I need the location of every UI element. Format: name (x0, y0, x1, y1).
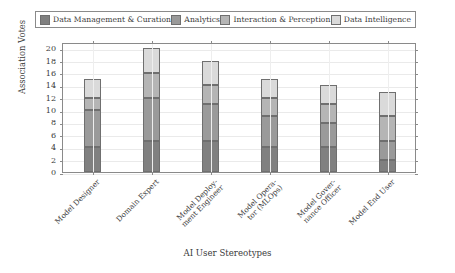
x-tick-mark (329, 172, 330, 175)
legend-swatch-icon (220, 15, 230, 25)
y-gridline (63, 161, 415, 162)
x-gridline (270, 44, 271, 172)
x-tick-mark (388, 172, 389, 175)
x-gridline (388, 44, 389, 172)
y-tick-mark (415, 50, 418, 51)
legend-swatch-icon (331, 15, 341, 25)
legend-label: Data Intelligence (344, 15, 411, 24)
x-gridline (329, 44, 330, 172)
y-tick-label: 0 (51, 169, 56, 177)
y-tick-mark (60, 62, 63, 63)
y-tick-mark (60, 124, 63, 125)
x-tick-label: Model Designer (46, 178, 101, 233)
y-gridline (63, 62, 415, 63)
y-tick-label: 4 (51, 144, 56, 152)
y-tick-mark (60, 174, 63, 175)
y-tick-mark (60, 50, 63, 51)
y-tick-label: 6 (51, 132, 56, 140)
x-gridline (211, 44, 212, 172)
x-tick-label: Model End User (341, 178, 396, 233)
legend-entry-1: Analytics (171, 15, 220, 25)
y-tick-mark (415, 161, 418, 162)
y-gridline (63, 112, 415, 113)
y-gridline (63, 174, 415, 175)
stacked-bar-chart: Data Management & CurationAnalyticsInter… (0, 0, 455, 273)
y-tick-label: 12 (46, 95, 56, 103)
y-gridline (63, 74, 415, 75)
y-gridline (63, 50, 415, 51)
x-tick-mark (152, 172, 153, 175)
x-tick-mark (211, 172, 212, 175)
y-tick-mark (415, 124, 418, 125)
x-tick-mark (270, 172, 271, 175)
x-gridline (152, 44, 153, 172)
y-tick-mark (415, 149, 418, 150)
y-tick-mark (60, 99, 63, 100)
x-axis-title: AI User Stereotypes (0, 248, 455, 258)
y-tick-label: 10 (46, 107, 56, 115)
y-gridline (63, 87, 415, 88)
legend-entry-0: Data Management & Curation (40, 15, 171, 25)
y-tick-mark (60, 112, 63, 113)
y-tick-mark (60, 161, 63, 162)
legend-entry-2: Interaction & Perception (220, 15, 330, 25)
x-tick-label: Domain Expert (105, 178, 160, 233)
y-tick-mark (60, 136, 63, 137)
y-gridline (63, 149, 415, 150)
y-tick-mark (60, 87, 63, 88)
y-tick-label: 18 (46, 58, 56, 66)
y-tick-mark (415, 136, 418, 137)
y-tick-mark (60, 149, 63, 150)
x-tick-mark (93, 172, 94, 175)
plot-area (62, 43, 416, 173)
y-tick-mark (415, 74, 418, 75)
y-tick-mark (415, 112, 418, 113)
x-tick-label: Model Gover- nance Officer (282, 178, 343, 239)
y-tick-label: 20 (46, 45, 56, 53)
y-tick-label: 14 (46, 82, 56, 90)
y-tick-mark (415, 62, 418, 63)
x-gridline (93, 44, 94, 172)
legend-label: Analytics (184, 15, 220, 24)
y-tick-mark (415, 174, 418, 175)
chart-legend: Data Management & CurationAnalyticsInter… (35, 11, 416, 28)
y-gridline (63, 124, 415, 125)
x-tick-label: Model Opera- tor (MLOps) (223, 178, 284, 239)
y-tick-label: 2 (51, 157, 56, 165)
legend-label: Data Management & Curation (53, 15, 171, 24)
y-tick-mark (415, 99, 418, 100)
y-axis-tick-labels: 02468101214161820 (0, 43, 60, 173)
y-tick-label: 16 (46, 70, 56, 78)
y-tick-label: 8 (51, 119, 56, 127)
y-gridline (63, 136, 415, 137)
x-tick-label: Model Deploy- ment Engineer (164, 178, 225, 239)
y-tick-mark (415, 87, 418, 88)
legend-label: Interaction & Perception (233, 15, 330, 24)
legend-swatch-icon (171, 15, 181, 25)
y-axis-title-wrap: Association Votes (0, 0, 1, 1)
y-gridline (63, 99, 415, 100)
y-tick-mark (60, 74, 63, 75)
legend-entry-3: Data Intelligence (331, 15, 411, 25)
legend-swatch-icon (40, 15, 50, 25)
